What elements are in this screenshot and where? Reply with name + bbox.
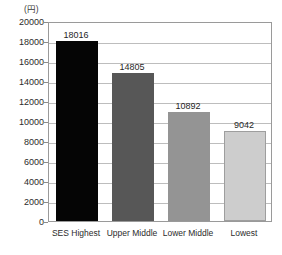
bar	[168, 112, 210, 221]
y-axis-tick-label: 8000	[24, 138, 44, 147]
x-axis-category-label: SES Highest	[48, 228, 104, 239]
y-axis-tick-label: 12000	[19, 98, 44, 107]
y-axis-tick-label: 16000	[19, 58, 44, 67]
y-axis-tick-label: 6000	[24, 158, 44, 167]
y-axis-tick-label: 10000	[19, 118, 44, 127]
bar-value-label: 9042	[223, 120, 265, 130]
y-axis-tick-label: 18000	[19, 38, 44, 47]
bar	[224, 131, 266, 221]
y-axis-tick-label: 2000	[24, 198, 44, 207]
y-axis-tick-label: 14000	[19, 78, 44, 87]
y-axis-tick-label: 4000	[24, 178, 44, 187]
x-axis-category-label: Lowest	[216, 228, 272, 239]
x-axis-category-label: Upper Middle	[104, 228, 160, 239]
bar-value-label: 18016	[55, 30, 97, 40]
bar-chart: (円) 200001800016000140001200010000800060…	[0, 0, 282, 255]
x-axis-category-label: Lower Middle	[160, 228, 216, 239]
bar-value-label: 10892	[167, 101, 209, 111]
bar	[56, 41, 98, 221]
y-axis-unit-label: (円)	[24, 4, 39, 14]
y-axis-tick-label: 20000	[19, 18, 44, 27]
bar	[112, 73, 154, 221]
bar-value-label: 14805	[111, 62, 153, 72]
